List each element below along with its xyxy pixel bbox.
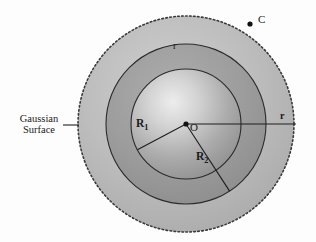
label-point-C: C — [258, 14, 265, 26]
gaussian-label-line2: Surface — [23, 124, 55, 135]
gaussian-surface-label: Gaussian Surface — [6, 113, 72, 136]
label-center-O: O — [190, 122, 198, 134]
label-r-top: r — [173, 41, 176, 52]
label-r-right: r — [280, 111, 284, 122]
label-R2-subscript: 2 — [204, 156, 208, 165]
point-C-marker — [247, 21, 252, 26]
gaussian-label-line1: Gaussian — [20, 113, 59, 124]
label-R1: R1 — [136, 117, 148, 133]
gauss-law-diagram: Gaussian Surface R1 R2 O r r C — [0, 0, 316, 242]
center-point-O — [183, 121, 188, 126]
label-R1-subscript: 1 — [144, 123, 148, 132]
label-R2: R2 — [196, 150, 208, 166]
